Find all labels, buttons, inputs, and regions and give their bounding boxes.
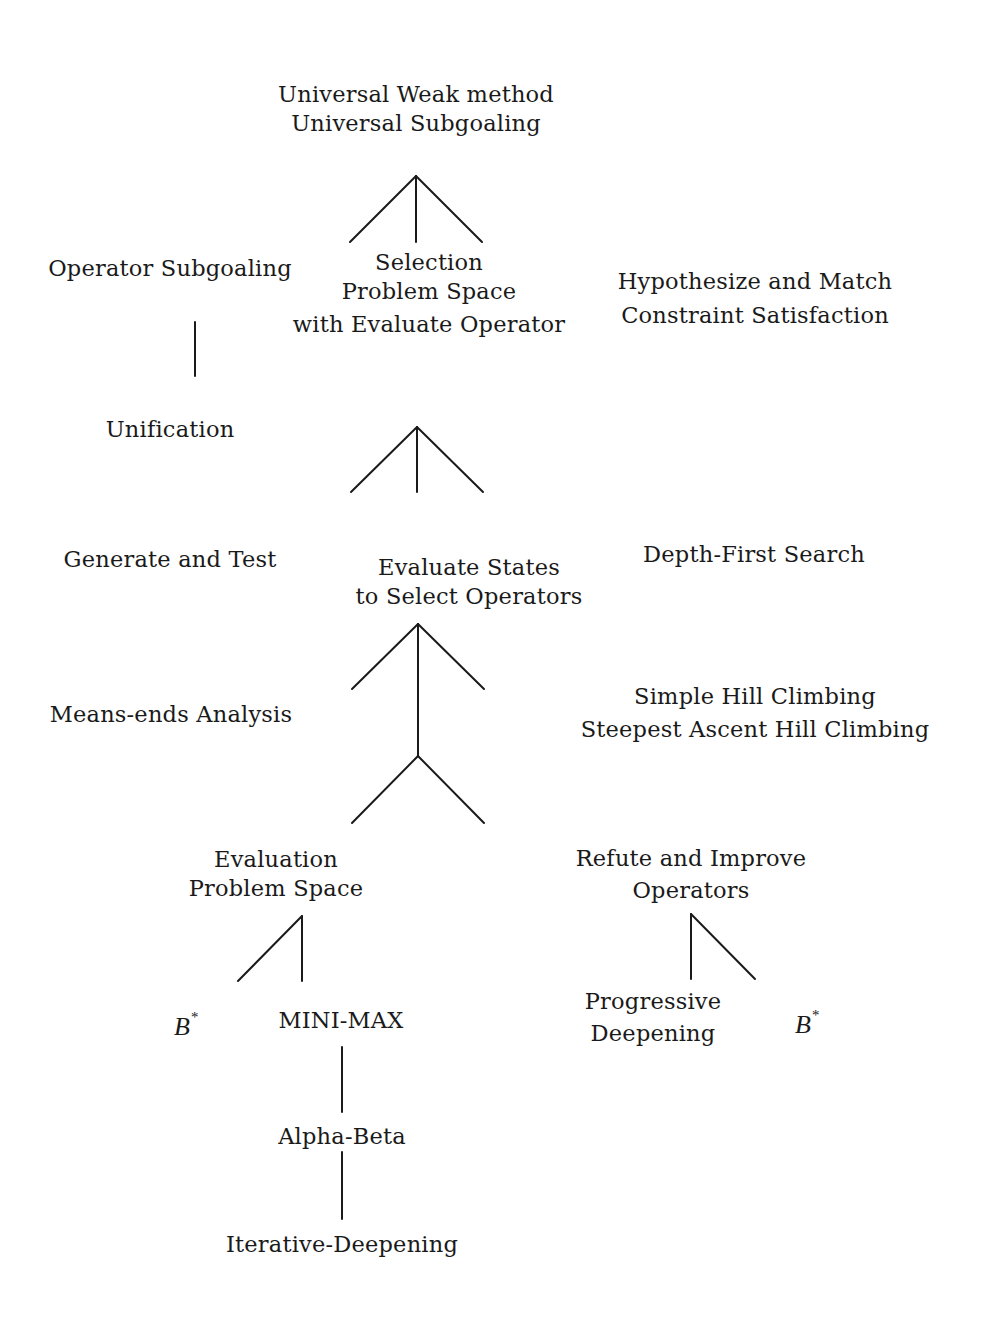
- node-iterative-deepening: Iterative-Deepening: [226, 1230, 458, 1259]
- node-b-star-right: B*: [795, 1004, 819, 1039]
- node-label: Depth-First Search: [643, 540, 865, 569]
- node-evaluate-states: Evaluate States to Select Operators: [356, 553, 583, 611]
- node-label: B: [174, 1012, 190, 1041]
- node-hypothesize-match: Hypothesize and Match Constraint Satisfa…: [618, 264, 892, 332]
- node-label: Alpha-Beta: [278, 1122, 406, 1151]
- node-label: Universal Subgoaling: [278, 109, 554, 138]
- node-unification: Unification: [106, 415, 235, 444]
- node-label: Constraint Satisfaction: [618, 298, 892, 332]
- node-label: MINI-MAX: [278, 1006, 403, 1035]
- node-label: Hypothesize and Match: [618, 264, 892, 298]
- node-evaluation-problem-space: Evaluation Problem Space: [189, 845, 364, 903]
- fork-evaluate-states: [352, 624, 484, 823]
- fork-evaluation-problem-space: [238, 916, 302, 981]
- node-label: Problem Space: [293, 277, 565, 306]
- node-means-ends-analysis: Means-ends Analysis: [50, 700, 292, 729]
- node-universal: Universal Weak method Universal Subgoali…: [278, 80, 554, 138]
- node-label: Iterative-Deepening: [226, 1230, 458, 1259]
- node-mini-max: MINI-MAX: [278, 1006, 403, 1035]
- node-label: Steepest Ascent Hill Climbing: [581, 713, 930, 746]
- node-label: Evaluate States: [356, 553, 583, 582]
- node-label: Evaluation: [189, 845, 364, 874]
- node-progressive-deepening: Progressive Deepening: [585, 985, 721, 1049]
- node-refute-improve: Refute and Improve Operators: [576, 842, 807, 906]
- connector-lines: [0, 0, 993, 1323]
- fork-universal: [350, 176, 482, 242]
- method-hierarchy-diagram: Universal Weak method Universal Subgoali…: [0, 0, 993, 1323]
- node-operator-subgoaling: Operator Subgoaling: [48, 254, 292, 283]
- node-label: Generate and Test: [64, 545, 277, 574]
- node-hill-climbing: Simple Hill Climbing Steepest Ascent Hil…: [581, 680, 930, 746]
- node-label: Problem Space: [189, 874, 364, 903]
- node-selection-problem-space: Selection Problem Space with Evaluate Op…: [293, 248, 565, 339]
- node-label: B: [795, 1010, 811, 1039]
- node-label: with Evaluate Operator: [293, 310, 565, 339]
- node-label: Operators: [576, 874, 807, 906]
- node-label: Simple Hill Climbing: [581, 680, 930, 713]
- node-label: Means-ends Analysis: [50, 700, 292, 729]
- node-depth-first-search: Depth-First Search: [643, 540, 865, 569]
- node-label: Universal Weak method: [278, 80, 554, 109]
- node-generate-test: Generate and Test: [64, 545, 277, 574]
- node-label-superscript: *: [811, 1007, 819, 1023]
- node-label: Progressive: [585, 985, 721, 1017]
- fork-refute-improve: [691, 914, 755, 979]
- node-label: Refute and Improve: [576, 842, 807, 874]
- node-label: to Select Operators: [356, 582, 583, 611]
- node-b-star-left: B*: [174, 1006, 198, 1041]
- node-label: Selection: [293, 248, 565, 277]
- node-alpha-beta: Alpha-Beta: [278, 1122, 406, 1151]
- node-label: Unification: [106, 415, 235, 444]
- fork-selection: [351, 427, 483, 492]
- node-label: Deepening: [585, 1017, 721, 1049]
- node-label: Operator Subgoaling: [48, 254, 292, 283]
- node-label-superscript: *: [190, 1009, 198, 1025]
